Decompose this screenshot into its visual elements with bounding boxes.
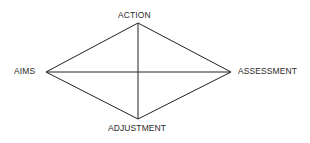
node-label-adjustment: ADJUSTMENT xyxy=(108,124,166,133)
edge-assessment-adjustment xyxy=(138,72,231,119)
node-label-assessment: ASSESSMENT xyxy=(238,67,297,76)
node-label-aims: AIMS xyxy=(14,67,35,76)
edge-adjustment-aims xyxy=(46,72,138,119)
edge-aims-action xyxy=(46,23,138,72)
edge-action-assessment xyxy=(138,23,231,72)
node-label-action: ACTION xyxy=(118,11,151,20)
